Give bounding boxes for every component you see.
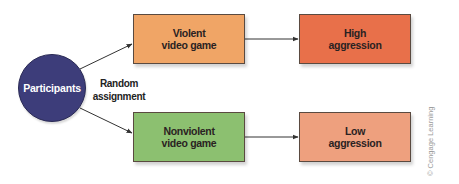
arrow-participants-to-nonviolent [80, 108, 132, 133]
violent-video-game-label: Violent video game [162, 27, 217, 52]
low-aggression-box: Low aggression [299, 112, 411, 162]
low-aggression-label: Low aggression [328, 125, 381, 150]
nonviolent-video-game-box: Nonviolent video game [133, 112, 245, 162]
participants-node: Participants [18, 54, 86, 122]
random-assignment-label: Random assignment [92, 78, 146, 103]
high-aggression-box: High aggression [299, 14, 411, 64]
nonviolent-video-game-label: Nonviolent video game [162, 125, 217, 150]
copyright-credit: © Cengage Learning [426, 107, 435, 176]
high-aggression-label: High aggression [328, 27, 381, 52]
diagram-canvas: Participants Random assignment Violent v… [0, 0, 459, 184]
participants-label: Participants [23, 82, 81, 94]
violent-video-game-box: Violent video game [133, 14, 245, 64]
arrow-participants-to-violent [80, 44, 132, 69]
